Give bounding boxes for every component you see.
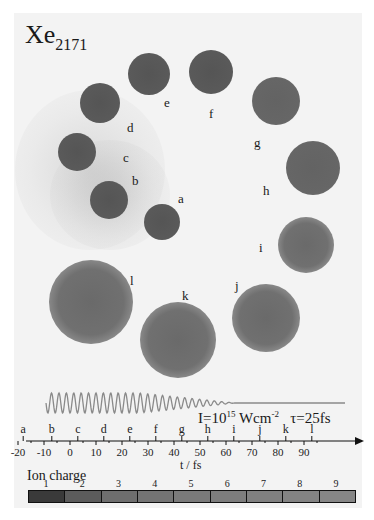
ion-charge-segment-4 <box>138 491 174 502</box>
timeline-graphic: -20-100102030405060708090abcdefghijkl <box>0 0 374 520</box>
snapshot-marker-b: b <box>49 422 55 436</box>
ion-charge-level: 9 <box>318 478 354 489</box>
ion-charge-level: 6 <box>209 478 245 489</box>
ion-charge-level: 4 <box>137 478 173 489</box>
tick-label: 80 <box>273 446 285 458</box>
ion-charge-segment-7 <box>247 491 283 502</box>
tick-label: 40 <box>169 446 181 458</box>
tick-label: 10 <box>91 446 103 458</box>
ion-charge-segment-6 <box>211 491 247 502</box>
snapshot-marker-c: c <box>75 422 80 436</box>
snapshot-marker-f: f <box>154 422 158 436</box>
snapshot-marker-e: e <box>127 422 132 436</box>
ion-charge-colorbar <box>28 490 356 503</box>
ion-charge-level: 5 <box>173 478 209 489</box>
axis-arrow-icon <box>355 437 364 445</box>
tick-label: 0 <box>67 446 73 458</box>
tick-label: 30 <box>143 446 155 458</box>
ion-charge-segment-5 <box>174 491 210 502</box>
snapshot-marker-d: d <box>101 422 107 436</box>
tick-label: 60 <box>221 446 233 458</box>
tick-label: 90 <box>299 446 311 458</box>
ion-charge-segment-3 <box>102 491 138 502</box>
time-axis-ticks: -20-100102030405060708090abcdefghijkl <box>11 422 317 458</box>
ion-charge-level: 1 <box>28 478 64 489</box>
tick-label: 50 <box>195 446 207 458</box>
laser-parameters: I=1015 Wcm-2 τ=25fs <box>198 409 331 427</box>
ion-charge-level: 2 <box>64 478 100 489</box>
ion-charge-segment-9 <box>320 491 355 502</box>
tick-label: 20 <box>117 446 129 458</box>
tick-label: 70 <box>247 446 259 458</box>
ion-charge-segment-1 <box>29 491 65 502</box>
ion-charge-segment-2 <box>65 491 101 502</box>
ion-charge-segment-8 <box>283 491 319 502</box>
ion-charge-level: 7 <box>245 478 281 489</box>
ion-charge-level: 8 <box>282 478 318 489</box>
time-axis-label: t / fs <box>180 458 201 473</box>
snapshot-marker-g: g <box>179 422 185 436</box>
snapshot-marker-a: a <box>21 422 27 436</box>
tick-label: -20 <box>11 446 26 458</box>
tick-label: -10 <box>37 446 52 458</box>
ion-charge-level: 3 <box>101 478 137 489</box>
